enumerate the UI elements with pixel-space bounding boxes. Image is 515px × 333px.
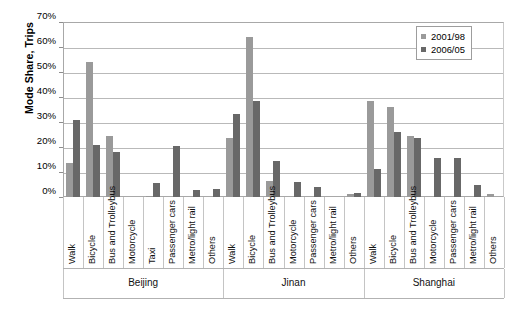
chart-legend: 2001/982006/05 [416, 26, 472, 60]
category-separator [63, 197, 64, 268]
legend-item: 2006/05 [421, 43, 465, 56]
legend-label: 2006/05 [431, 44, 465, 55]
bar [474, 185, 481, 197]
y-axis-tick-mark [59, 122, 63, 123]
category-separator [284, 197, 285, 268]
y-axis-tick-label: 60% [8, 35, 56, 46]
category-label: Bus and Trolleybus [267, 186, 277, 264]
bar [394, 132, 401, 197]
bar [294, 182, 301, 197]
category-label: Passenger cars [448, 200, 458, 264]
category-label: Metro/light rail [328, 206, 338, 264]
bar [233, 114, 240, 197]
legend-swatch-icon [421, 34, 426, 39]
bar [387, 107, 394, 197]
category-label: Passenger cars [308, 200, 318, 264]
category-separator [143, 197, 144, 268]
bar [367, 101, 374, 198]
bar [93, 145, 100, 197]
category-label: Others [348, 236, 358, 264]
bar [374, 169, 381, 197]
legend-swatch-icon [421, 47, 426, 52]
category-label: Walk [67, 244, 77, 264]
category-label: Motorcycle [127, 220, 137, 264]
bar [226, 138, 233, 197]
category-separator [464, 197, 465, 268]
category-label: Walk [368, 244, 378, 264]
bar [246, 37, 253, 197]
category-label: Motorcycle [288, 220, 298, 264]
category-separator [344, 197, 345, 268]
category-separator [404, 197, 405, 268]
city-group-axis: BeijingJinanShanghai [63, 269, 504, 299]
y-axis-tick-mark [59, 22, 63, 23]
category-separator [384, 197, 385, 268]
category-label: Others [488, 236, 498, 264]
bar [153, 183, 160, 197]
category-separator [183, 197, 184, 268]
category-separator [304, 197, 305, 268]
y-axis-tick-label: 40% [8, 85, 56, 96]
category-separator [243, 197, 244, 268]
category-label: Bicycle [247, 235, 257, 264]
y-axis-tick-label: 30% [8, 110, 56, 121]
y-axis-title: Mode Share, Trips [23, 0, 35, 143]
category-separator [203, 197, 204, 268]
category-separator [103, 197, 104, 268]
y-axis-tick-label: 10% [8, 160, 56, 171]
category-label: Metro/light rail [468, 206, 478, 264]
bar [193, 190, 200, 197]
y-axis-tick-mark [59, 147, 63, 148]
category-label: Bicycle [388, 235, 398, 264]
category-separator [504, 197, 505, 268]
city-label: Jinan [223, 277, 363, 288]
category-separator [223, 197, 224, 268]
legend-label: 2001/98 [431, 31, 465, 42]
city-separator [504, 269, 505, 298]
category-label: Bus and Trolleybus [408, 186, 418, 264]
bar [173, 146, 180, 198]
y-axis-tick-mark [59, 47, 63, 48]
y-axis-tick-label: 0% [8, 185, 56, 196]
legend-item: 2001/98 [421, 30, 465, 43]
y-axis-tick-mark [59, 172, 63, 173]
category-label: Passenger cars [167, 200, 177, 264]
category-separator [83, 197, 84, 268]
category-separator [324, 197, 325, 268]
category-label: Bicycle [87, 235, 97, 264]
category-label: Walk [227, 244, 237, 264]
category-separator [263, 197, 264, 268]
y-axis-tick-label: 20% [8, 135, 56, 146]
bar [66, 163, 73, 198]
category-label: Others [207, 236, 217, 264]
category-separator [123, 197, 124, 268]
category-separator [163, 197, 164, 268]
y-axis-tick-label: 50% [8, 60, 56, 71]
bar [253, 101, 260, 197]
category-label: Bus and Trolleybus [107, 186, 117, 264]
city-label: Shanghai [364, 277, 504, 288]
bar [454, 158, 461, 197]
category-separator [364, 197, 365, 268]
y-axis-tick-label: 70% [8, 10, 56, 21]
bar [434, 158, 441, 198]
category-separator [424, 197, 425, 268]
mode-share-bar-chart: Mode Share, Trips 0%10%20%30%40%50%60%70… [0, 0, 515, 333]
category-label: Motorcycle [428, 220, 438, 264]
category-separator [484, 197, 485, 268]
category-label: Taxi [147, 248, 157, 264]
category-label: Metro/light rail [187, 206, 197, 264]
bar [213, 189, 220, 198]
category-axis-labels: WalkBicycleBus and TrolleybusMotorcycleT… [63, 197, 504, 269]
category-separator [444, 197, 445, 268]
y-axis-tick-mark [59, 72, 63, 73]
bar [86, 62, 93, 197]
city-label: Beijing [63, 277, 223, 288]
y-axis-tick-mark [59, 97, 63, 98]
bar [314, 187, 321, 198]
bar [73, 120, 80, 198]
